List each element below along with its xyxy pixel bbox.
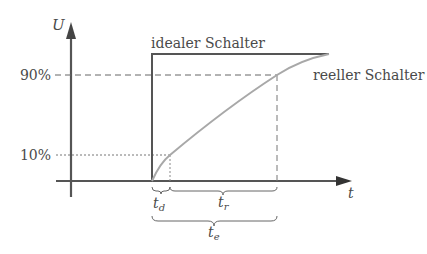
x-axis-label: t xyxy=(348,185,354,201)
switching-time-diagram: U t 90% 10% idealer Schalter reeller Sch… xyxy=(0,0,427,254)
ten-percent-label: 10% xyxy=(20,147,51,163)
y-axis xyxy=(66,22,76,197)
rise-time-label: tr xyxy=(218,194,230,212)
ideal-switch-curve xyxy=(152,54,329,181)
delay-time-label: td xyxy=(153,195,165,213)
on-time-label: te xyxy=(208,224,220,242)
real-switch-label: reeller Schalter xyxy=(313,67,425,83)
real-switch-curve xyxy=(152,54,329,181)
y-axis-label: U xyxy=(52,16,66,34)
on-time-brace xyxy=(152,216,277,226)
delay-brace xyxy=(152,187,170,194)
x-axis xyxy=(56,176,352,186)
y-axis-arrow-icon xyxy=(66,22,76,39)
ninety-percent-guide xyxy=(55,75,277,181)
ideal-switch-label: idealer Schalter xyxy=(151,35,265,51)
ninety-percent-label: 90% xyxy=(20,67,51,83)
